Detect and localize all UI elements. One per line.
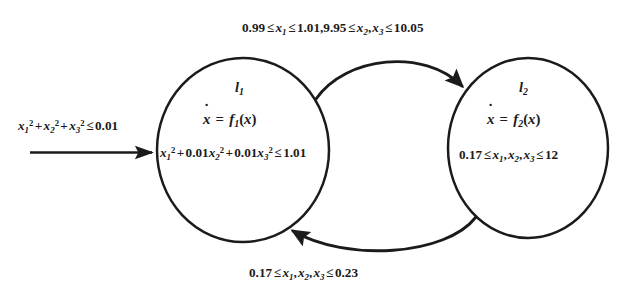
transition-l2-to-l1-guard-label: 0.17≤x1, x2, x3≤0.23 [249,266,358,282]
transition-l1-to-l2-arrow[interactable] [316,62,462,99]
location-l2-name-label: l2 [519,80,528,98]
diagram-canvas: x12+x22+x32≤0.01 0.99≤x1≤1.01,9.95≤x2, x… [0,0,639,302]
transition-l2-to-l1-arrow[interactable] [293,217,476,251]
location-l1-invariant-label: x12+0.01x22+0.01x32≤1.01 [160,146,306,162]
transition-l1-to-l2-guard-label: 0.99≤x1≤1.01,9.95≤x2, x3≤10.05 [242,21,423,37]
location-l1-dynamics-label: x = f1(x) [203,111,256,129]
location-l2-dynamics-label: x = f2(x) [487,111,540,129]
location-l1-name-label: l1 [235,80,244,98]
location-l2-invariant-label: 0.17≤x1, x2, x3≤12 [459,148,558,164]
initial-condition-label: x12+x22+x32≤0.01 [18,119,118,135]
